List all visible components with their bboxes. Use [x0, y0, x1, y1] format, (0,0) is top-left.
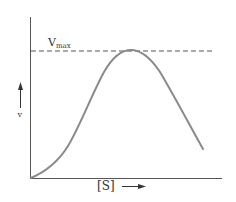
vmax-subscript: max: [56, 42, 71, 50]
x-arrow-right-icon: [138, 184, 146, 189]
enzyme-activity-chart: Vmax v [S]: [0, 0, 236, 202]
x-axis-label: [S]: [97, 179, 115, 193]
activity-curve: [31, 50, 203, 178]
y-arrow-up-icon: [18, 82, 23, 90]
y-axis-label: v: [17, 110, 23, 119]
vmax-label: Vmax: [47, 36, 71, 50]
